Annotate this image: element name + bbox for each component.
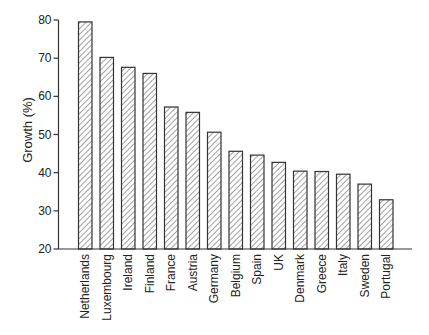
x-tick-label: Finland [143, 254, 157, 293]
bar-chart: Growth (%) 20304050607080 NetherlandsLux… [0, 0, 429, 335]
x-axis-labels: NetherlandsLuxembourgIrelandFinlandFranc… [78, 253, 393, 321]
x-tick-label: Italy [336, 254, 350, 276]
bar-denmark [294, 171, 308, 249]
bar-netherlands [79, 22, 93, 249]
x-tick-label: Sweden [358, 254, 372, 297]
y-tick-label: 70 [38, 51, 52, 65]
bar-germany [208, 132, 222, 249]
bar-finland [143, 73, 157, 249]
x-tick-label: France [164, 254, 178, 292]
bar-austria [186, 112, 200, 249]
bar-spain [251, 155, 265, 249]
bar-ireland [122, 67, 136, 249]
bar-belgium [229, 151, 243, 249]
y-tick-label: 80 [38, 13, 52, 27]
bar-portugal [380, 200, 394, 249]
x-tick-label: Belgium [229, 254, 243, 297]
x-tick-label: Luxembourg [100, 254, 114, 321]
bar-italy [337, 174, 351, 249]
x-tick-label: Spain [250, 254, 264, 285]
bars [79, 22, 394, 249]
x-tick-label: Netherlands [78, 254, 92, 319]
x-tick-label: Ireland [121, 254, 135, 291]
bar-greece [315, 172, 329, 249]
x-tick-label: Austria [186, 254, 200, 292]
y-axis: 20304050607080 [38, 13, 58, 256]
x-tick-label: Germany [207, 254, 221, 303]
y-axis-title: Growth (%) [20, 97, 35, 163]
y-tick-label: 50 [38, 128, 52, 142]
bar-uk [272, 162, 286, 249]
x-tick-label: Denmark [293, 253, 307, 303]
x-tick-label: Portugal [379, 254, 393, 299]
bar-france [165, 107, 179, 249]
bar-luxembourg [100, 57, 114, 249]
x-tick-label: UK [272, 254, 286, 271]
y-tick-label: 20 [38, 242, 52, 256]
y-tick-label: 60 [38, 89, 52, 103]
y-tick-label: 30 [38, 204, 52, 218]
x-tick-label: Greece [315, 254, 329, 294]
y-tick-label: 40 [38, 166, 52, 180]
bar-sweden [358, 184, 372, 249]
